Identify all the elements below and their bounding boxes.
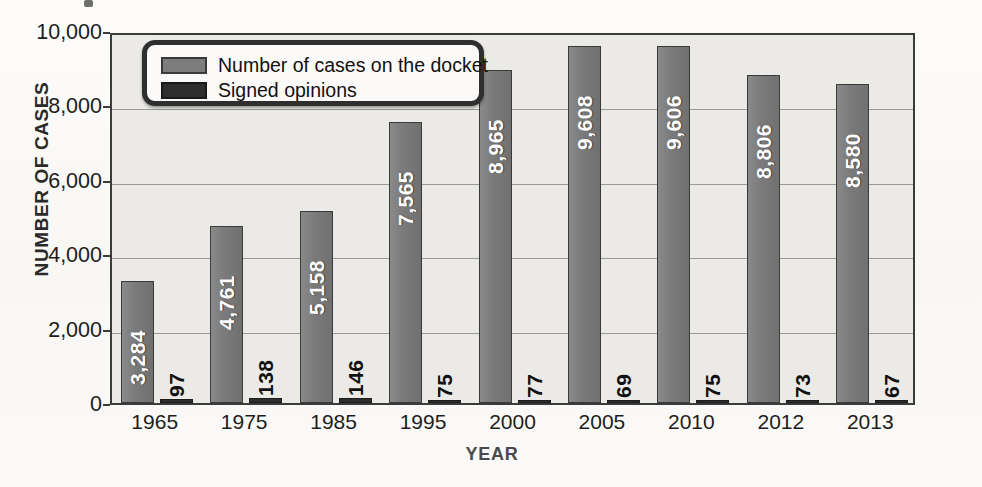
- x-tick-label: 1995: [378, 410, 467, 434]
- bar-signed: [696, 400, 729, 403]
- bar-value-label-signed: 67: [880, 352, 904, 398]
- bar-value-label-docket: 8,965: [484, 76, 508, 174]
- x-tick-label: 1965: [110, 410, 199, 434]
- bar-signed: [875, 400, 908, 403]
- bar-value-label-docket: 9,606: [662, 52, 686, 150]
- y-tick-mark: [103, 255, 110, 257]
- bar-signed: [339, 398, 372, 403]
- y-tick-mark: [103, 181, 110, 183]
- x-tick-label: 1975: [199, 410, 288, 434]
- bar-value-label-docket: 5,158: [305, 217, 329, 315]
- x-tick-label: 2005: [557, 410, 646, 434]
- x-axis-title: YEAR: [392, 444, 592, 465]
- x-tick-label: 2012: [736, 410, 825, 434]
- bar-signed: [518, 400, 551, 403]
- bar-chart: NUMBER OF CASES 02,0004,0006,0008,00010,…: [0, 0, 982, 487]
- bar-value-label-docket: 8,806: [752, 81, 776, 179]
- bar-signed: [249, 398, 282, 403]
- bar-signed: [428, 400, 461, 403]
- y-tick-label: 2,000: [10, 318, 102, 343]
- legend-swatch-signed: [161, 82, 207, 99]
- bar-value-label-docket: 8,580: [841, 90, 865, 188]
- bar-signed: [160, 399, 193, 403]
- bar-value-label-signed: 75: [433, 352, 457, 398]
- y-tick-label: 0: [10, 392, 102, 417]
- x-tick-label: 2000: [468, 410, 557, 434]
- bar-value-label-signed: 75: [701, 352, 725, 398]
- x-tick-label: 2013: [826, 410, 915, 434]
- plot-area: 3,284974,7611385,1581467,565758,965779,6…: [110, 33, 915, 405]
- x-tick-label: 1985: [289, 410, 378, 434]
- bar-value-label-signed: 97: [165, 351, 189, 397]
- y-tick-label: 8,000: [10, 94, 102, 119]
- y-tick-mark: [103, 106, 110, 108]
- y-tick-mark: [103, 32, 110, 34]
- legend-label-signed: Signed opinions: [218, 79, 357, 102]
- bar-value-label-signed: 77: [523, 352, 547, 398]
- bar-signed: [786, 400, 819, 403]
- legend-label-docket: Number of cases on the docket: [218, 54, 488, 77]
- gridline: [112, 109, 913, 110]
- bar-value-label-docket: 7,565: [394, 128, 418, 226]
- legend-item-signed: Signed opinions: [161, 79, 357, 102]
- gridline: [112, 184, 913, 185]
- bar-value-label-signed: 73: [791, 352, 815, 398]
- x-tick-label: 2010: [647, 410, 736, 434]
- bar-value-label-signed: 69: [612, 352, 636, 398]
- y-tick-label: 6,000: [10, 169, 102, 194]
- y-tick-mark: [103, 404, 110, 406]
- bar-value-label-docket: 3,284: [126, 287, 150, 385]
- y-tick-label: 10,000: [10, 20, 102, 45]
- legend-item-docket: Number of cases on the docket: [161, 54, 488, 77]
- y-tick-mark: [103, 330, 110, 332]
- legend-swatch-docket: [161, 57, 207, 74]
- bar-value-label-docket: 9,608: [573, 52, 597, 150]
- chart-legend: Number of cases on the docket Signed opi…: [142, 40, 484, 106]
- bar-signed: [607, 400, 640, 403]
- bar-value-label-signed: 146: [344, 350, 368, 396]
- bar-value-label-signed: 138: [254, 350, 278, 396]
- y-tick-label: 4,000: [10, 243, 102, 268]
- bar-value-label-docket: 4,761: [215, 232, 239, 330]
